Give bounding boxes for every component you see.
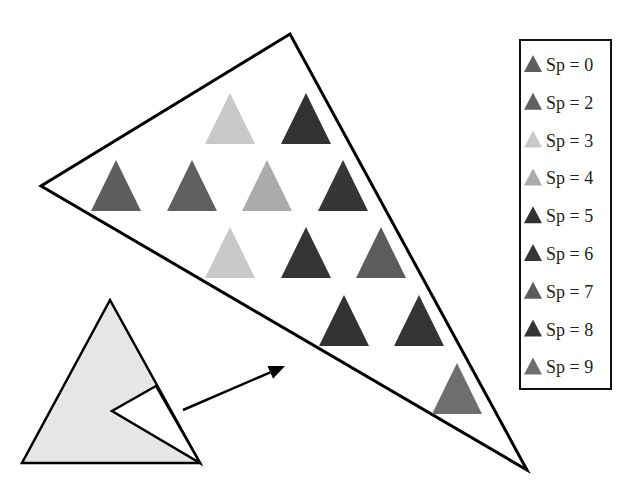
diagram-canvas: Sp = 0Sp = 2Sp = 3Sp = 4Sp = 5Sp = 6Sp =…: [0, 0, 636, 491]
legend-label: Sp = 5: [546, 206, 593, 226]
sp-8-triangle: [281, 227, 331, 278]
small-triangle-group: [22, 300, 200, 463]
legend: Sp = 0Sp = 2Sp = 3Sp = 4Sp = 5Sp = 6Sp =…: [520, 40, 611, 389]
legend-item-sp-9: Sp = 9: [524, 357, 593, 377]
legend-item-sp-0: Sp = 0: [524, 55, 593, 75]
legend-item-sp-4: Sp = 4: [524, 168, 593, 188]
legend-item-sp-2: Sp = 2: [524, 93, 593, 113]
legend-item-sp-5: Sp = 5: [524, 206, 593, 226]
legend-label: Sp = 3: [546, 131, 593, 151]
sp-5-triangle: [319, 295, 369, 346]
legend-item-sp-8: Sp = 8: [524, 320, 593, 340]
legend-item-sp-7: Sp = 7: [524, 282, 593, 302]
legend-label: Sp = 6: [546, 244, 593, 264]
legend-label: Sp = 2: [546, 93, 593, 113]
sp-0-triangle: [91, 160, 141, 211]
sp-5-triangle: [281, 93, 331, 144]
legend-items: Sp = 0Sp = 2Sp = 3Sp = 4Sp = 5Sp = 6Sp =…: [524, 55, 593, 377]
legend-item-sp-3: Sp = 3: [524, 131, 593, 151]
legend-label: Sp = 7: [546, 282, 593, 302]
legend-item-sp-6: Sp = 6: [524, 244, 593, 264]
sp-2-triangle: [167, 160, 217, 211]
sp-3-triangle: [205, 93, 255, 144]
sp-6-triangle: [318, 160, 368, 211]
legend-label: Sp = 9: [546, 357, 593, 377]
sp-cell-grid: [91, 93, 482, 414]
sp-3-triangle: [205, 227, 255, 278]
legend-label: Sp = 8: [546, 320, 593, 340]
sp-4-triangle: [242, 160, 292, 211]
zoom-arrow: [183, 372, 270, 410]
legend-label: Sp = 4: [546, 168, 593, 188]
legend-label: Sp = 0: [546, 55, 593, 75]
